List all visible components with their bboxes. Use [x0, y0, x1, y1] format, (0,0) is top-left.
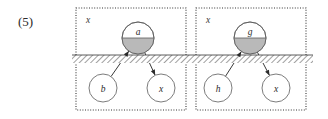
equation-number-label: (5): [18, 14, 33, 29]
figure-container: (5) x x abxghx: [0, 0, 328, 119]
figure-canvas: (5) x x abxghx: [0, 0, 328, 119]
node-group-left-bottom-right: x: [147, 74, 175, 102]
ground-band-group: [72, 55, 313, 63]
node-group-right-bottom-right: x: [262, 74, 290, 102]
node-group-right-top: g: [234, 22, 266, 54]
arrowhead-group-left-top-to-bottom-right: [151, 69, 155, 75]
arrowhead-group-right-top-to-bottom-right: [265, 70, 269, 76]
node-group-left-bottom-left: b: [89, 74, 117, 102]
ground-hatched-band: [72, 55, 313, 63]
node-group-left-top: a: [122, 22, 154, 54]
node-label: x: [158, 84, 164, 94]
node-group-right-bottom-left: h: [204, 74, 232, 102]
group-left-corner-label: x: [85, 15, 91, 25]
node-label: a: [136, 27, 141, 37]
node-label: b: [101, 84, 106, 94]
node-label: x: [273, 84, 279, 94]
group-right-corner-label: x: [205, 15, 211, 25]
node-label: h: [216, 84, 221, 94]
node-label: g: [248, 27, 253, 37]
